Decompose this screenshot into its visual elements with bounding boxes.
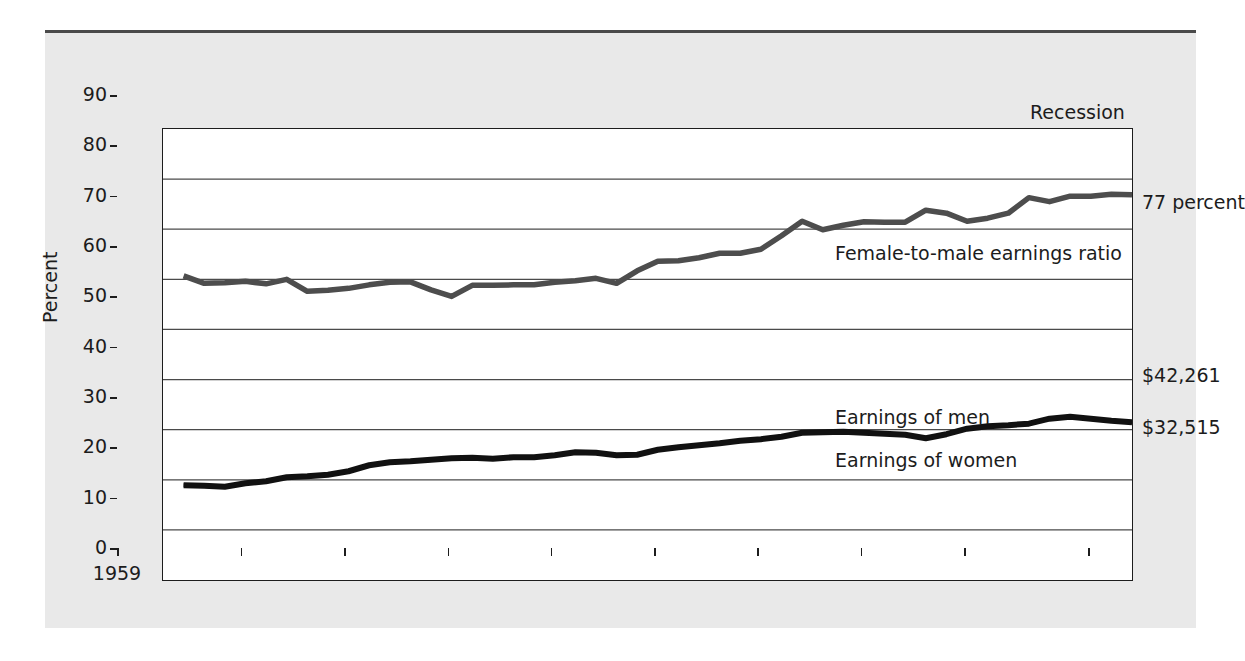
y-tick-mark [110,397,117,399]
x-tick-mark [861,548,863,556]
y-tick-label: 70 [67,186,107,205]
x-tick-mark [551,548,553,556]
y-axis-title: Percent [39,252,61,324]
x-tick-label: 1959 [72,564,162,583]
men-series-label: Earnings of men [835,406,990,428]
x-tick-mark [117,548,119,556]
x-tick-mark [964,548,966,556]
plot-area [162,128,1133,581]
series-lines [184,194,1132,487]
x-tick-mark [448,548,450,556]
y-tick-label: 40 [67,337,107,356]
y-tick-mark [110,347,117,349]
ratio-end-annotation: 77 percent [1142,191,1245,213]
y-tick-mark [110,296,117,298]
women-series-label: Earnings of women [835,449,1017,471]
y-tick-mark [110,95,117,97]
y-tick-label: 30 [67,387,107,406]
y-tick-mark [110,145,117,147]
women-end-annotation: $32,515 [1142,416,1221,438]
y-tick-label: 10 [67,488,107,507]
y-tick-label: 60 [67,236,107,255]
y-tick-mark [110,498,117,500]
men-end-annotation: $42,261 [1142,364,1221,386]
recession-annotation: Recession [1030,101,1125,123]
x-tick-mark [241,548,243,556]
y-tick-label: 0 [67,538,107,557]
ratio-series-label: Female-to-male earnings ratio [835,242,1122,264]
y-tick-label: 90 [67,85,107,104]
y-tick-mark [110,447,117,449]
y-tick-label: 50 [67,286,107,305]
plot-svg [163,129,1132,580]
x-tick-mark [654,548,656,556]
y-tick-mark [110,548,117,550]
y-tick-mark [110,246,117,248]
x-tick-mark [1088,548,1090,556]
y-tick-label: 80 [67,135,107,154]
x-tick-mark [757,548,759,556]
chart-figure: Percent 0102030405060708090 195919651970… [45,33,1196,628]
x-tick-mark [344,548,346,556]
y-tick-label: 20 [67,437,107,456]
y-tick-mark [110,196,117,198]
